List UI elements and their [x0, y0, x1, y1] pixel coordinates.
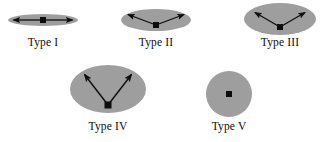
type-classification-figure — [0, 0, 327, 142]
type-3-center-marker — [277, 24, 283, 30]
diagram-type-5 — [206, 71, 252, 117]
type-1-center-marker — [40, 17, 46, 23]
type-5-center-marker — [226, 91, 232, 97]
type-3-ellipse — [244, 3, 316, 35]
diagram-type-4 — [70, 65, 146, 113]
label-type-4: Type IV — [62, 120, 154, 132]
diagram-type-3 — [244, 3, 316, 35]
type-4-center-marker — [105, 102, 112, 109]
label-type-1: Type I — [0, 36, 86, 48]
diagram-type-2 — [121, 9, 191, 31]
label-type-5: Type V — [186, 120, 272, 132]
diagram-type-1 — [8, 14, 78, 26]
type-2-center-marker — [153, 22, 159, 28]
label-type-3: Type III — [236, 36, 324, 48]
label-type-2: Type II — [115, 36, 197, 48]
